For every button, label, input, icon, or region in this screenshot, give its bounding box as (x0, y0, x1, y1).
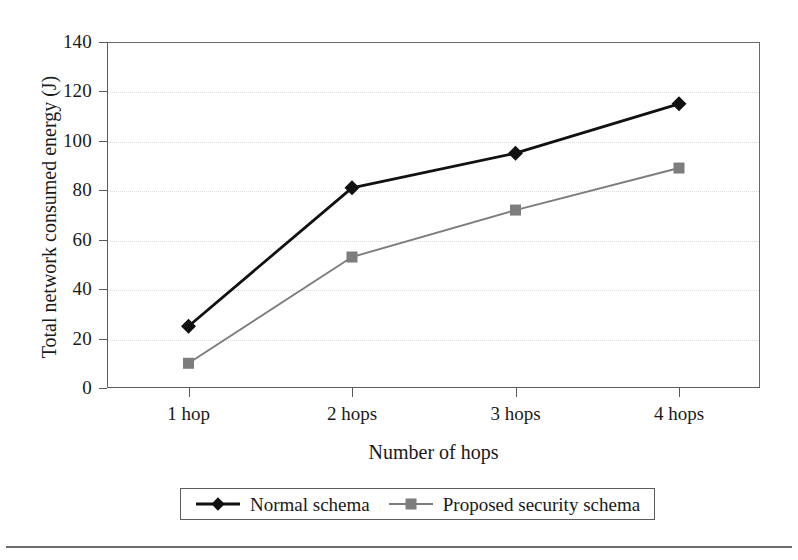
legend-square-marker-icon (388, 496, 434, 512)
page-divider-rule (6, 546, 792, 548)
legend-diamond-marker-icon (195, 496, 241, 512)
gridline (108, 142, 759, 143)
figure-line-chart: 140 120 100 80 60 40 20 0 1 hop 2 hops 3… (0, 0, 798, 560)
x-axis-tick (679, 388, 680, 397)
gridline (108, 191, 759, 192)
y-axis-tick (99, 141, 107, 142)
y-axis-tick (99, 388, 107, 389)
y-axis-tick (99, 42, 107, 43)
x-axis-tick (189, 388, 190, 397)
gridline (108, 241, 759, 242)
y-axis-tick (99, 91, 107, 92)
gridline (108, 340, 759, 341)
y-axis-tick (99, 240, 107, 241)
legend-entry-proposed-security-schema: Proposed security schema (388, 495, 640, 514)
legend-label: Proposed security schema (443, 495, 640, 514)
plot-area (107, 42, 760, 388)
gridline (108, 290, 759, 291)
y-axis-tick (99, 289, 107, 290)
x-axis-tick-label: 2 hops (327, 403, 377, 425)
legend: Normal schema Proposed security schema (180, 488, 655, 520)
x-axis-tick-label: 1 hop (167, 403, 210, 425)
legend-label: Normal schema (250, 495, 370, 514)
y-axis-tick (99, 339, 107, 340)
gridline (108, 92, 759, 93)
y-axis-tick (99, 190, 107, 191)
x-axis-tick (352, 388, 353, 397)
y-axis-title: Total network consumed energy (J) (37, 44, 61, 390)
legend-entry-normal-schema: Normal schema (195, 495, 370, 514)
x-axis-tick (516, 388, 517, 397)
x-axis-title: Number of hops (107, 440, 760, 464)
x-axis-tick-label: 4 hops (654, 403, 704, 425)
x-axis-tick-label: 3 hops (490, 403, 540, 425)
